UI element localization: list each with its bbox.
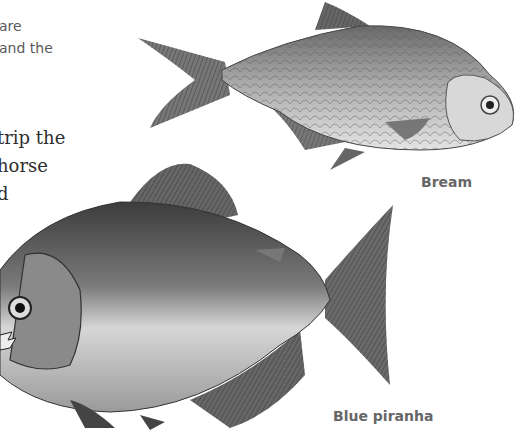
bream-caption: Bream (421, 174, 472, 190)
body-text-line-2: and the (0, 38, 53, 58)
body-text-line-3: trip the (0, 126, 65, 150)
blue-piranha-caption: Blue piranha (333, 408, 433, 424)
piranha-fish-illustration-icon (0, 160, 400, 432)
body-text-line-1: are (0, 16, 22, 36)
bream-fish-illustration-icon (130, 0, 522, 175)
